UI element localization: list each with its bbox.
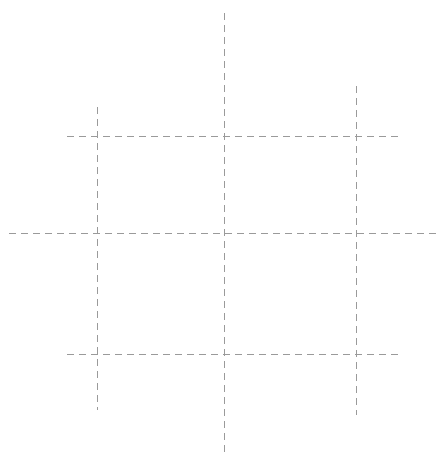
- dashed-grid-diagram: [0, 0, 448, 461]
